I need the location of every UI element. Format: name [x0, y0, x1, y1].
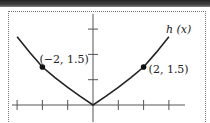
chart-plot: (−2, 1.5)(2, 1.5) h (x)	[0, 0, 210, 123]
point-marker	[141, 64, 147, 70]
annotated-points: (−2, 1.5)(2, 1.5)	[39, 53, 188, 76]
point-label: (2, 1.5)	[149, 63, 189, 76]
point-label: (−2, 1.5)	[39, 53, 88, 66]
function-label: h (x)	[166, 23, 191, 36]
